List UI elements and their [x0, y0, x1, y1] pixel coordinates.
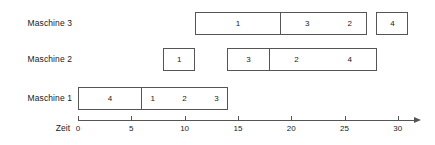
- axis-tick-label: 25: [340, 124, 349, 133]
- axis-arrow-icon: [414, 117, 421, 123]
- task-label: 4: [348, 55, 352, 64]
- axis-tick-label: 10: [180, 124, 189, 133]
- axis-tick: [131, 116, 132, 121]
- task-label: 2: [294, 55, 298, 64]
- task-bar: 2: [270, 48, 324, 71]
- axis-tick: [345, 116, 346, 121]
- task-bar: 4: [323, 48, 377, 71]
- axis-tick-label: 20: [287, 124, 296, 133]
- row-label-machine-1: Maschine 1: [0, 93, 72, 103]
- task-label: 3: [305, 19, 309, 28]
- axis-tick-label: 5: [129, 124, 133, 133]
- task-label: 1: [150, 94, 154, 103]
- task-bar: 3: [206, 87, 228, 110]
- axis-line: [78, 120, 414, 121]
- task-label: 4: [108, 94, 112, 103]
- axis-tick-label: 0: [76, 124, 80, 133]
- gantt-chart: Maschine 31324Maschine 21324Maschine 141…: [0, 0, 435, 145]
- axis-tick: [238, 116, 239, 121]
- row-label-machine-2: Maschine 2: [0, 54, 72, 64]
- axis-tick: [185, 116, 186, 121]
- task-label: 2: [348, 19, 352, 28]
- task-label: 2: [182, 94, 186, 103]
- task-label: 1: [236, 19, 240, 28]
- axis-tick: [78, 116, 79, 121]
- task-bar: 3: [281, 12, 335, 35]
- axis-tick: [291, 116, 292, 121]
- task-label: 3: [246, 55, 250, 64]
- axis-tick-label: 30: [393, 124, 402, 133]
- task-label: 1: [177, 55, 181, 64]
- task-bar: 1: [163, 48, 195, 71]
- task-bar: 2: [163, 87, 207, 110]
- axis-title: Zeit: [0, 123, 70, 133]
- task-label: 4: [390, 19, 394, 28]
- task-bar: 1: [142, 87, 164, 110]
- row-label-machine-3: Maschine 3: [0, 18, 72, 28]
- task-bar: 1: [195, 12, 280, 35]
- task-bar: 2: [334, 12, 367, 35]
- axis-tick-label: 15: [233, 124, 242, 133]
- task-bar: 4: [78, 87, 142, 110]
- axis-tick: [398, 116, 399, 121]
- task-bar: 4: [376, 12, 408, 35]
- task-bar: 3: [227, 48, 270, 71]
- task-label: 3: [214, 94, 218, 103]
